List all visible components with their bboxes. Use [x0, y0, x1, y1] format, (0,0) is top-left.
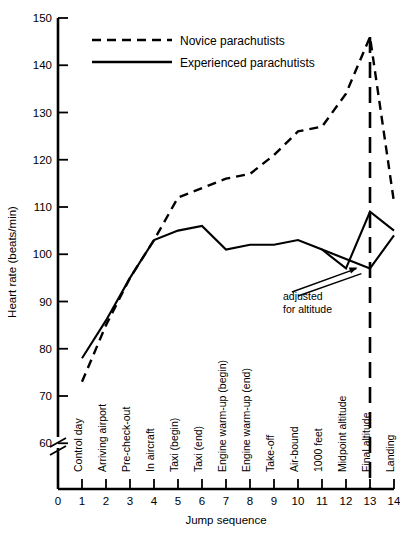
category-label-taxi-begin: Taxi (begin)	[168, 418, 180, 472]
category-label-arriving-airport: Arriving airport	[96, 404, 108, 472]
y-axis-ticks	[58, 18, 68, 443]
x-tick-label-0: 0	[55, 495, 61, 507]
x-tick-label-13: 13	[364, 495, 377, 507]
y-tick-label-130: 130	[33, 107, 52, 119]
y-tick-label-70: 70	[39, 390, 52, 402]
category-label-air-bound: Air-bound	[288, 426, 300, 472]
y-tick-label-120: 120	[33, 154, 52, 166]
y-axis-title: Heart rate (beats/min)	[6, 206, 18, 318]
category-label-control-day: Control day	[72, 418, 84, 472]
chart-figure: 15014013012011010090807060 0123456789101…	[0, 0, 400, 536]
annotation-line1: adjusted	[283, 290, 323, 302]
x-tick-label-14: 14	[388, 495, 400, 507]
category-label-take-off: Take-off	[264, 435, 276, 472]
series-line-novice-parachutists	[82, 37, 394, 382]
x-tick-label-10: 10	[292, 495, 305, 507]
x-tick-label-4: 4	[151, 495, 158, 507]
category-label-engine-warm-up-end: Engine warm-up (end)	[240, 368, 252, 472]
x-axis-tick-labels: 01234567891011121314	[55, 495, 400, 507]
y-axis-tick-labels: 15014013012011010090807060	[33, 12, 52, 449]
x-tick-label-5: 5	[175, 495, 181, 507]
annotation-line2: for altitude	[283, 303, 332, 315]
category-label-taxi-end: Taxi (end)	[192, 426, 204, 472]
category-label-pre-check-out: Pre-check-out	[120, 407, 132, 472]
y-tick-label-60: 60	[39, 437, 52, 449]
x-tick-label-3: 3	[127, 495, 133, 507]
category-label-in-aircraft: In aircraft	[144, 428, 156, 472]
chart-legend: Novice parachutists Experienced parachut…	[92, 34, 315, 70]
y-tick-label-150: 150	[33, 12, 52, 24]
category-label-1000-feet: 1000 feet	[312, 428, 324, 472]
y-tick-label-110: 110	[34, 201, 52, 213]
x-tick-label-1: 1	[79, 495, 85, 507]
legend-label-experienced: Experienced parachutists	[180, 56, 315, 70]
x-tick-label-6: 6	[199, 495, 205, 507]
x-tick-label-7: 7	[223, 495, 229, 507]
x-tick-label-9: 9	[271, 495, 277, 507]
y-tick-label-80: 80	[39, 343, 52, 355]
y-tick-label-90: 90	[39, 296, 52, 308]
legend-label-novice: Novice parachutists	[180, 34, 285, 48]
x-axis-ticks	[82, 479, 394, 489]
series-line-experienced-parachutists	[82, 212, 394, 358]
x-axis-category-labels: Control dayArriving airportPre-check-out…	[72, 360, 396, 472]
x-tick-label-12: 12	[340, 495, 353, 507]
x-tick-label-2: 2	[103, 495, 109, 507]
x-tick-label-8: 8	[247, 495, 253, 507]
category-label-midpoint-altitude: Midpoint altitude	[336, 395, 348, 472]
x-tick-label-11: 11	[316, 495, 328, 507]
category-label-engine-warm-up-begin: Engine warm-up (begin)	[216, 360, 228, 472]
y-tick-label-100: 100	[33, 248, 52, 260]
y-tick-label-140: 140	[33, 59, 52, 71]
x-axis-title: Jump sequence	[185, 514, 266, 526]
heart-rate-line-chart: 15014013012011010090807060 0123456789101…	[0, 0, 400, 536]
category-label-landing: Landing	[384, 434, 396, 472]
